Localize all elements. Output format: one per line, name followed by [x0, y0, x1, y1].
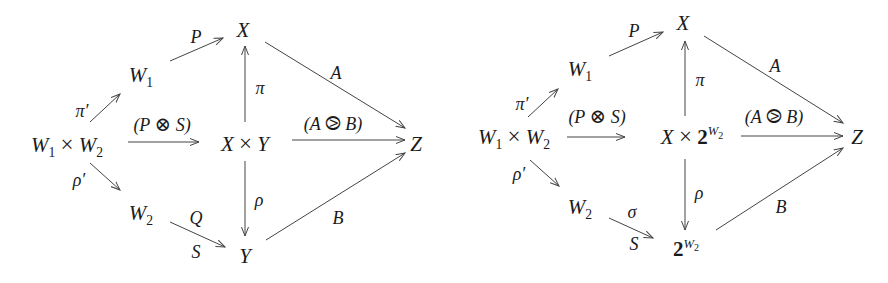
- label-pi-prime: π′: [76, 102, 89, 120]
- otimes-symbol: ⊗: [155, 113, 172, 135]
- label-a-ogreater-b: (A ⧁ B): [304, 114, 363, 134]
- label-rho-prime: ρ′: [513, 165, 526, 183]
- label-b: B: [776, 198, 787, 216]
- powerset-exp: W: [683, 237, 694, 251]
- label-s: S: [192, 243, 201, 261]
- w1w2-b: W: [526, 125, 544, 149]
- label-pi: π: [255, 79, 264, 97]
- ab-close: B): [341, 114, 363, 134]
- node-w1-base: W: [568, 57, 586, 81]
- label-rho-prime: ρ′: [73, 171, 86, 189]
- powerset-base: 2: [697, 125, 708, 149]
- node-x: X: [237, 20, 250, 41]
- powerset-base: 2: [673, 237, 684, 261]
- node-y-text: Y: [239, 244, 251, 268]
- ab-close: B): [782, 107, 804, 127]
- label-a: A: [770, 57, 781, 75]
- xy-a: X: [221, 132, 234, 156]
- xw-a: X: [661, 125, 674, 149]
- ab-open: (A: [745, 107, 766, 127]
- arrow-right-w1w2-to-w2: [530, 160, 559, 186]
- label-pi: π: [695, 71, 704, 89]
- node-w2: W2: [129, 203, 153, 227]
- label-p: P: [191, 28, 202, 46]
- arrow-right-2w-to-z: [716, 148, 843, 230]
- ps-close: S): [606, 107, 626, 127]
- w1w2-b: W: [79, 133, 97, 157]
- node-w1: W1: [568, 59, 592, 83]
- powerset-exp: W: [708, 125, 719, 139]
- w1w2-a-sub: 1: [495, 137, 502, 152]
- ps-close: S): [171, 115, 191, 135]
- w1w2-b-sub: 2: [96, 145, 103, 160]
- node-w2-base: W: [129, 201, 147, 225]
- node-z: Z: [851, 127, 863, 148]
- otimes-symbol: ⊗: [590, 105, 607, 127]
- label-p: P: [629, 22, 640, 40]
- w1w2-a-sub: 1: [48, 145, 55, 160]
- label-a: A: [331, 64, 342, 82]
- node-z-text: Z: [851, 125, 863, 149]
- times-symbol: ×: [507, 123, 520, 149]
- w1w2-a: W: [478, 125, 496, 149]
- xy-b: Y: [257, 132, 269, 156]
- node-x-text: X: [237, 18, 250, 42]
- node-w1: W1: [129, 65, 153, 89]
- node-w1-times-w2: W1 × W2: [31, 133, 103, 159]
- label-p-tensor-s: (P ⊗ S): [133, 115, 190, 135]
- label-sigma: σ: [628, 203, 637, 221]
- label-a-ogreater-b: (A ⧁ B): [745, 107, 804, 127]
- node-z-text: Z: [410, 132, 422, 156]
- label-pi-prime: π′: [516, 95, 529, 113]
- node-w2: W2: [568, 197, 592, 221]
- node-x-times-powerset-w2: X × 2W2: [661, 125, 723, 148]
- label-rho: ρ: [255, 191, 264, 209]
- node-w2-sub: 2: [585, 207, 592, 222]
- ogreater-symbol: ⧁: [325, 112, 341, 134]
- times-symbol: ×: [60, 131, 73, 157]
- times-symbol: ×: [679, 123, 692, 149]
- label-p-tensor-s: (P ⊗ S): [568, 107, 625, 127]
- node-y: Y: [239, 246, 251, 267]
- node-x: X: [677, 13, 690, 34]
- arrow-left-w1w2-to-w2: [90, 163, 120, 190]
- ps-open: (P: [568, 107, 589, 127]
- label-rho: ρ: [695, 184, 704, 202]
- w1w2-a: W: [31, 133, 49, 157]
- powerset-exp-sub: 2: [694, 242, 699, 253]
- label-s: S: [630, 235, 639, 253]
- node-x-times-y: X × Y: [221, 132, 269, 155]
- node-w1-base: W: [129, 63, 147, 87]
- arrow-right-w1w2-to-w1: [528, 89, 558, 117]
- ab-open: (A: [304, 114, 325, 134]
- arrow-left-w1w2-to-w1: [90, 94, 120, 122]
- node-w2-sub: 2: [146, 213, 153, 228]
- node-w1-times-w2: W1 × W2: [478, 125, 550, 151]
- node-w2-base: W: [568, 195, 586, 219]
- node-powerset-w2: 2W2: [673, 238, 699, 261]
- w1w2-b-sub: 2: [543, 137, 550, 152]
- node-x-text: X: [677, 11, 690, 35]
- times-symbol: ×: [239, 130, 252, 156]
- label-q: Q: [190, 209, 203, 227]
- arrows-layer: [0, 0, 888, 283]
- ogreater-symbol: ⧁: [766, 105, 782, 127]
- node-z: Z: [410, 134, 422, 155]
- node-w1-sub: 1: [146, 75, 153, 90]
- label-b: B: [333, 209, 344, 227]
- ps-open: (P: [133, 115, 154, 135]
- node-w1-sub: 1: [585, 69, 592, 84]
- powerset-exp-sub: 2: [718, 130, 723, 141]
